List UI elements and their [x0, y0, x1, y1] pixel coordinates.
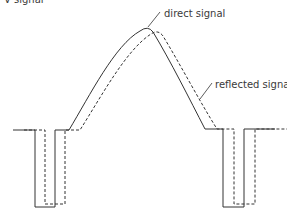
direct-leader-line [148, 12, 160, 27]
reflected-leader-line [200, 83, 212, 99]
direct-signal-trace [13, 28, 275, 207]
reflected-signal-trace [24, 32, 287, 204]
direct-signal-label: direct signal [164, 9, 225, 19]
signal-diagram [0, 0, 287, 224]
reflected-signal-label: reflected signal [215, 80, 287, 90]
